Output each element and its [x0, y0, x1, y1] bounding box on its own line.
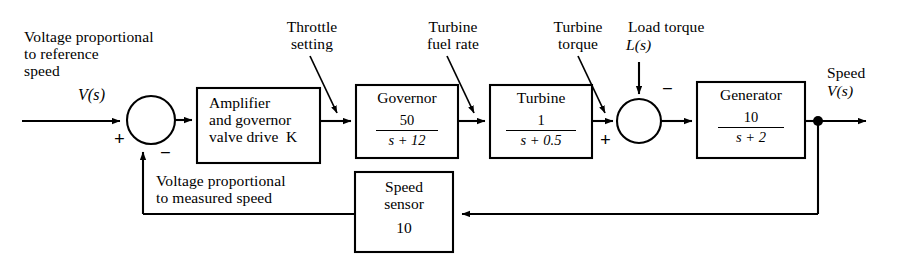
load-torque-label: Load torque — [628, 18, 704, 35]
generator-fraction-bar — [718, 127, 784, 128]
turbine-fraction-bar — [506, 130, 576, 131]
feedback-signal-label: Voltage proportional to measured speed — [156, 172, 286, 206]
turbine-numerator: 1 — [506, 113, 576, 129]
block-governor-title: Governor — [356, 89, 458, 106]
input-signal-label: Voltage proportional to reference speed — [24, 28, 154, 79]
block-speed-sensor-title: Speed sensor — [355, 178, 453, 212]
block-speed-sensor-gain: 10 — [355, 219, 453, 237]
load-junction-circle — [617, 99, 661, 143]
block-generator-title: Generator — [697, 86, 805, 103]
load-torque-variable-label: L(s) — [626, 36, 651, 53]
error-junction-circle — [127, 96, 175, 144]
block-generator-transfer-function: 10 s + 2 — [718, 110, 784, 145]
block-diagram: Voltage proportional to reference speed … — [0, 0, 897, 270]
output-signal-label: Speed — [827, 64, 865, 81]
generator-denominator: s + 2 — [718, 129, 784, 145]
block-governor-transfer-function: 50 s + 12 — [376, 113, 438, 148]
block-turbine-transfer-function: 1 s + 0.5 — [506, 113, 576, 148]
governor-numerator: 50 — [376, 113, 438, 129]
governor-denominator: s + 12 — [376, 132, 438, 148]
throttle-setting-label: Throttle setting — [262, 18, 362, 52]
input-variable-label: V(s) — [78, 86, 105, 103]
output-variable-label: V(s) — [827, 82, 853, 99]
block-turbine-title: Turbine — [490, 89, 592, 106]
generator-numerator: 10 — [718, 110, 784, 126]
load-junction-plus-sign: + — [600, 130, 611, 149]
turbine-fuel-rate-label: Turbine fuel rate — [398, 18, 508, 52]
error-junction-minus-sign: − — [160, 143, 171, 162]
turbine-denominator: s + 0.5 — [506, 132, 576, 148]
error-junction-plus-sign: + — [114, 129, 125, 148]
output-tap-dot — [813, 116, 823, 126]
block-amplifier-title: Amplifier and governor valve drive K — [203, 94, 321, 145]
load-junction-minus-sign: − — [662, 79, 673, 98]
governor-fraction-bar — [376, 130, 438, 131]
turbine-torque-label: Turbine torque — [528, 18, 628, 52]
